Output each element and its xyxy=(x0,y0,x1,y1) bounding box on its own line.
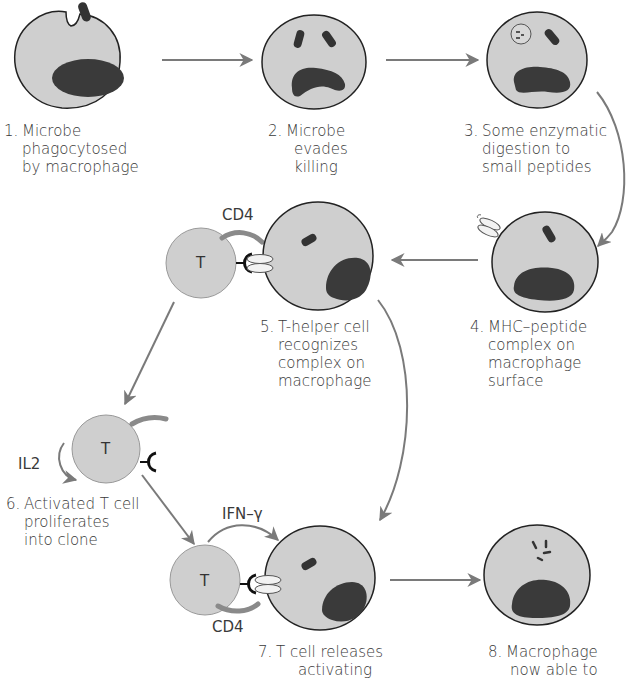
arrow-5-to-7 xyxy=(378,300,407,520)
mhc-peptide-complex xyxy=(476,215,501,240)
step-8-label: 8.Macrophage now able to xyxy=(488,643,598,679)
step-3-label: 3.Some enzymatic digestion to small pept… xyxy=(464,122,607,176)
step-5-label: 5.T-helper cell recognizes complex on ma… xyxy=(260,318,372,390)
step-7-label: 7.T cell releases activating xyxy=(258,643,383,679)
t-cell-6 xyxy=(59,415,166,483)
macrophage-cell-7 xyxy=(255,526,375,630)
step-number: 8. xyxy=(488,643,506,661)
step-number: 4. xyxy=(470,318,488,336)
step-number: 3. xyxy=(464,122,482,140)
macrophage-cell-3 xyxy=(487,12,587,108)
step-2-label: 2.Microbe evades killing xyxy=(268,122,348,176)
step-6-label: 6.Activated T cell proliferates into clo… xyxy=(6,495,140,549)
t-cell-letter: T xyxy=(101,440,110,458)
tcr-receptor xyxy=(249,575,257,593)
arrow-5-to-6 xyxy=(125,302,174,404)
step-number: 6. xyxy=(6,495,24,513)
cd4-molecule xyxy=(132,418,166,424)
step-1-label: 1.Microbe phagocytosed by macrophage xyxy=(4,122,139,176)
cd4-label-top: CD4 xyxy=(222,206,254,224)
t-cell-letter: T xyxy=(200,572,209,590)
tcr-receptor xyxy=(149,453,157,471)
ifn-gamma-arrow xyxy=(208,525,278,542)
nucleus xyxy=(52,59,124,97)
step-4-label: 4.MHC–peptide complex on macrophage surf… xyxy=(470,318,587,390)
macrophage-cell-2 xyxy=(262,15,366,109)
macrophage-cell-1 xyxy=(15,1,124,108)
macrophage-cell-4 xyxy=(476,212,598,312)
step-number: 1. xyxy=(4,122,22,140)
step-number: 7. xyxy=(258,643,276,661)
step-number: 2. xyxy=(268,122,286,140)
t-cell-5 xyxy=(166,228,262,298)
t-cell-letter: T xyxy=(196,254,205,272)
arrow-6-to-7 xyxy=(142,475,194,544)
cd4-label-bottom: CD4 xyxy=(212,618,244,636)
nucleus xyxy=(514,268,575,301)
macrophage-cell-5 xyxy=(247,202,373,310)
t-cell-7 xyxy=(170,525,278,615)
macrophage-cell-8 xyxy=(484,525,590,625)
step-number: 5. xyxy=(260,318,278,336)
il2-label: IL2 xyxy=(18,455,40,473)
ifn-gamma-label: IFN–γ xyxy=(222,505,263,523)
